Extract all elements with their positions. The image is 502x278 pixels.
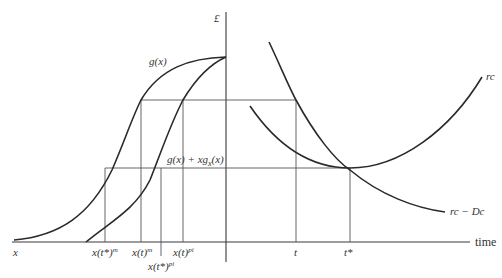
rc-curve-label: rc — [486, 70, 495, 82]
g-plus-xgx-curve — [86, 57, 226, 242]
g-plus-curve-label: g(x) + xgx(x) — [167, 153, 224, 168]
rc-minus-dc-curve — [269, 42, 445, 212]
origin-label: x — [12, 246, 18, 258]
rc-curve — [250, 77, 482, 168]
tick-xt-m: x(t)m — [131, 246, 152, 259]
tick-tstar: t* — [344, 246, 353, 258]
tick-xt-pi: x(t)pi — [172, 246, 194, 259]
tick-t: t — [294, 246, 298, 258]
diagram-canvas: £ time x g(x) g(x) + xgx(x) rc rc − Dc x… — [0, 0, 502, 278]
x-axis-label: time — [475, 235, 496, 249]
diagram-svg: £ time x g(x) g(x) + xgx(x) rc rc − Dc x… — [0, 0, 502, 278]
y-axis-label: £ — [214, 12, 220, 24]
tick-xtstar-pi: x(t*)pi — [147, 260, 174, 273]
tick-xtstar-m: x(t*)m — [91, 246, 118, 259]
g-curve-label: g(x) — [149, 55, 167, 68]
rc-minus-dc-curve-label: rc − Dc — [450, 205, 485, 217]
